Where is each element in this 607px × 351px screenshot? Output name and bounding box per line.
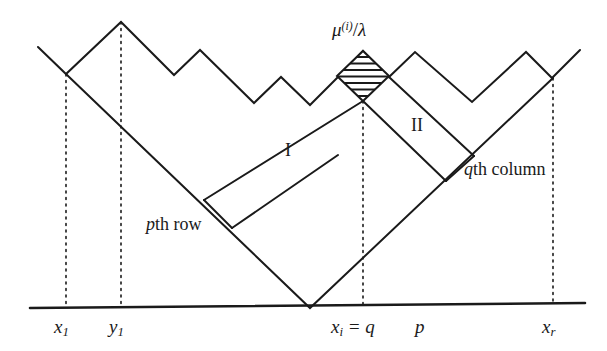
axis-label-xi-rest: = q bbox=[343, 316, 375, 337]
axis-label-x-l: x1 bbox=[54, 317, 69, 339]
diamond-hatch-lines bbox=[335, 57, 391, 96]
band-one-lower-edge bbox=[232, 155, 338, 228]
axis-label-x-r-sub: r bbox=[550, 324, 555, 339]
band-region-one bbox=[204, 101, 363, 228]
axis-label-y-l-sub: 1 bbox=[117, 324, 123, 339]
qth-column-label: qth column bbox=[464, 160, 546, 178]
region-two-label: II bbox=[411, 116, 423, 134]
pth-row-text: th row bbox=[155, 214, 202, 234]
band-two-upper-edge bbox=[389, 77, 474, 156]
principal-diagonal-v bbox=[66, 74, 553, 308]
pth-row-label: pth row bbox=[146, 215, 202, 233]
axis-label-p: p bbox=[415, 317, 425, 336]
pth-row-variable: p bbox=[146, 214, 155, 234]
axis-label-xi-eq-q: xi = q bbox=[331, 317, 375, 339]
band-two-lower-edge bbox=[363, 101, 446, 181]
figure-container: μ(i)/λ I II pth row qth column x1 y1 xi … bbox=[0, 0, 607, 351]
lambda-glyph: λ bbox=[358, 19, 366, 40]
axis-label-x-l-sub: 1 bbox=[62, 324, 68, 339]
hatched-diamond-cell bbox=[335, 51, 391, 101]
mu-superscript: (i) bbox=[342, 20, 353, 33]
profile-zigzag-path bbox=[38, 22, 580, 105]
axis-label-y-l: y1 bbox=[109, 317, 124, 339]
baseline-axis bbox=[30, 303, 585, 308]
region-one-label: I bbox=[285, 141, 291, 159]
mu-glyph: μ bbox=[332, 19, 342, 40]
qth-column-variable: q bbox=[464, 159, 473, 179]
mu-lambda-label: μ(i)/λ bbox=[332, 20, 366, 39]
band-one-cap-edge bbox=[204, 200, 232, 228]
band-one-upper-edge bbox=[204, 101, 363, 200]
qth-column-text: th column bbox=[473, 159, 546, 179]
axis-label-x-r: xr bbox=[542, 317, 555, 339]
